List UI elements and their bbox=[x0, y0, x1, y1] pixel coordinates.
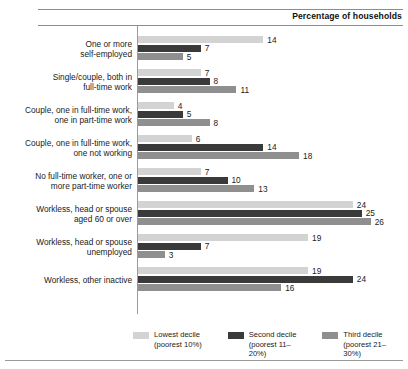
legend-item[interactable]: Lowest decile(poorest 10%) bbox=[133, 330, 214, 359]
bar-row: 3 bbox=[138, 251, 403, 258]
bar-row: 5 bbox=[138, 53, 403, 60]
bar-set: 1973 bbox=[138, 234, 403, 260]
bar bbox=[138, 168, 201, 175]
legend-swatch bbox=[133, 332, 149, 339]
bar bbox=[138, 36, 263, 43]
legend-swatch bbox=[228, 332, 244, 339]
bar-row: 19 bbox=[138, 267, 403, 274]
bar-row: 6 bbox=[138, 135, 403, 142]
bar-row: 18 bbox=[138, 152, 403, 159]
bar-value-label: 24 bbox=[357, 200, 366, 210]
bar-value-label: 14 bbox=[267, 142, 276, 152]
bar-value-label: 10 bbox=[232, 175, 241, 185]
category-label: Workless, head or spouse unemployed bbox=[10, 236, 132, 257]
bar-value-label: 5 bbox=[187, 109, 192, 119]
bar-group: Workless, head or spouse unemployed1973 bbox=[0, 230, 408, 263]
bar-row: 13 bbox=[138, 185, 403, 192]
legend-item[interactable]: Third decile(poorest 21–30%) bbox=[322, 330, 403, 359]
bar bbox=[138, 185, 254, 192]
bar-row: 8 bbox=[138, 119, 403, 126]
bar-row: 24 bbox=[138, 201, 403, 208]
legend-text: Lowest decile(poorest 10%) bbox=[154, 330, 202, 349]
bar bbox=[138, 243, 201, 250]
legend-series-sublabel: (poorest 21–30%) bbox=[343, 340, 403, 359]
bar-set: 192416 bbox=[138, 267, 403, 293]
bar-set: 1475 bbox=[138, 36, 403, 62]
legend-series-name: Lowest decile bbox=[154, 330, 200, 339]
bar-row: 24 bbox=[138, 276, 403, 283]
bar bbox=[138, 86, 236, 93]
bar-row: 7 bbox=[138, 69, 403, 76]
bar bbox=[138, 144, 263, 151]
bar-row: 8 bbox=[138, 78, 403, 85]
bar-value-label: 26 bbox=[375, 217, 384, 227]
legend-text: Second decile(poorest 11–20%) bbox=[249, 330, 309, 359]
bar-value-label: 7 bbox=[205, 241, 210, 251]
bar-group: Workless, head or spouse aged 60 or over… bbox=[0, 197, 408, 230]
legend-series-sublabel: (poorest 10%) bbox=[154, 340, 202, 350]
bar bbox=[138, 201, 353, 208]
bar bbox=[138, 177, 228, 184]
bar bbox=[138, 267, 308, 274]
legend-text: Third decile(poorest 21–30%) bbox=[343, 330, 403, 359]
bar-value-label: 4 bbox=[178, 101, 183, 111]
bar-value-label: 19 bbox=[312, 233, 321, 243]
bar-group: Couple, one in full-time work, one in pa… bbox=[0, 98, 408, 131]
bar-row: 16 bbox=[138, 284, 403, 291]
chart-figure: Percentage of households One or more sel… bbox=[0, 0, 408, 369]
plot-area: One or more self-employed1475Single/coup… bbox=[0, 26, 408, 317]
bar-row: 11 bbox=[138, 86, 403, 93]
legend-item[interactable]: Second decile(poorest 11–20%) bbox=[228, 330, 309, 359]
bar bbox=[138, 111, 183, 118]
bar-value-label: 6 bbox=[196, 134, 201, 144]
bar-row: 7 bbox=[138, 243, 403, 250]
legend-swatch bbox=[322, 332, 338, 339]
bar-row: 19 bbox=[138, 234, 403, 241]
bar-value-label: 16 bbox=[285, 283, 294, 293]
bar-group: One or more self-employed1475 bbox=[0, 32, 408, 65]
bar-row: 4 bbox=[138, 102, 403, 109]
bar-group: No full-time worker, one or more part-ti… bbox=[0, 164, 408, 197]
bar-row: 7 bbox=[138, 168, 403, 175]
category-label: No full-time worker, one or more part-ti… bbox=[10, 170, 132, 191]
bar-value-label: 19 bbox=[312, 266, 321, 276]
category-label: Workless, other inactive bbox=[10, 274, 132, 284]
bar bbox=[138, 152, 299, 159]
bar bbox=[138, 119, 210, 126]
bar-row: 7 bbox=[138, 45, 403, 52]
bar-row: 5 bbox=[138, 111, 403, 118]
bar bbox=[138, 45, 201, 52]
category-label: Couple, one in full-time work, one not w… bbox=[10, 137, 132, 158]
bar-set: 7811 bbox=[138, 69, 403, 95]
bar-value-label: 5 bbox=[187, 52, 192, 62]
bar-row: 10 bbox=[138, 177, 403, 184]
bar-set: 61418 bbox=[138, 135, 403, 161]
bar-set: 242526 bbox=[138, 201, 403, 227]
bar bbox=[138, 53, 183, 60]
bar-group: Workless, other inactive192416 bbox=[0, 263, 408, 296]
legend-series-name: Third decile bbox=[343, 330, 382, 339]
bar bbox=[138, 135, 192, 142]
bar bbox=[138, 276, 353, 283]
bar-group: Single/couple, both in full-time work781… bbox=[0, 65, 408, 98]
bar-value-label: 3 bbox=[169, 250, 174, 260]
bar bbox=[138, 210, 362, 217]
bar-group: Couple, one in full-time work, one not w… bbox=[0, 131, 408, 164]
bar bbox=[138, 284, 281, 291]
bar bbox=[138, 218, 371, 225]
bar-value-label: 18 bbox=[303, 151, 312, 161]
bar-set: 458 bbox=[138, 102, 403, 128]
header-top-rule bbox=[38, 9, 403, 10]
category-label: One or more self-employed bbox=[10, 38, 132, 59]
legend-series-name: Second decile bbox=[249, 330, 297, 339]
bar-value-label: 13 bbox=[258, 184, 267, 194]
bar-value-label: 7 bbox=[205, 167, 210, 177]
category-label: Workless, head or spouse aged 60 or over bbox=[10, 203, 132, 224]
bar-row: 14 bbox=[138, 144, 403, 151]
bar-value-label: 8 bbox=[214, 76, 219, 86]
bar-value-label: 7 bbox=[205, 68, 210, 78]
bar bbox=[138, 69, 201, 76]
bar-value-label: 14 bbox=[267, 35, 276, 45]
bar-value-label: 24 bbox=[357, 274, 366, 284]
axis-caption: Percentage of households bbox=[292, 11, 402, 21]
